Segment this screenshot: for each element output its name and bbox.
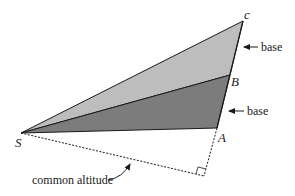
label-s: S [15,135,22,150]
diagram-canvas: S A B c base base common altitude [0,0,295,196]
altitude-line [21,133,204,176]
label-base-lower: base [247,104,268,118]
label-c: c [244,7,250,22]
label-common-altitude: common altitude [32,173,113,187]
label-b: B [231,74,239,89]
label-a: A [217,130,226,145]
label-base-upper: base [261,40,282,54]
